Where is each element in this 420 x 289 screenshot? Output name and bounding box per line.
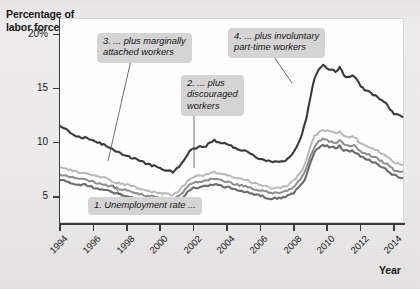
x-tick — [326, 224, 328, 231]
x-tick-label: 2000 — [134, 233, 170, 269]
annotation-3: 3. ... plus marginally attached workers — [97, 33, 192, 63]
x-tick-label: 2012 — [334, 233, 370, 269]
x-tick — [93, 224, 95, 231]
x-tick — [59, 224, 61, 231]
annotation-1: 1. Unemployment rate ... — [88, 197, 202, 215]
annotation-2: 2. ... plus discouraged workers — [181, 75, 244, 116]
x-tick-label: 2002 — [167, 233, 203, 269]
x-tick-label: 1998 — [100, 233, 136, 269]
y-tick-label: 10 — [37, 136, 48, 147]
x-tick — [226, 224, 228, 231]
x-tick-label: 2008 — [267, 233, 303, 269]
x-tick — [293, 224, 295, 231]
x-tick-label: 1994 — [34, 233, 70, 269]
y-tick — [53, 142, 60, 144]
y-tick — [53, 88, 60, 90]
x-tick — [193, 224, 195, 231]
x-tick-label: 2004 — [201, 233, 237, 269]
x-tick-label: 1996 — [67, 233, 103, 269]
x-tick — [260, 224, 262, 231]
x-tick — [126, 224, 128, 231]
y-tick-label: 20% — [28, 28, 48, 39]
x-tick — [360, 224, 362, 231]
y-tick-label: 5 — [42, 190, 48, 201]
annotation-4: 4. ... plus involuntary part-time worker… — [228, 28, 325, 58]
figure-page: Percentage of labor force Year 20%15105 … — [0, 0, 420, 289]
y-tick — [53, 196, 60, 198]
x-tick — [159, 224, 161, 231]
x-axis-line — [59, 223, 405, 225]
x-tick — [393, 224, 395, 231]
y-tick — [53, 34, 60, 36]
x-axis-title: Year — [379, 264, 401, 277]
x-tick-label: 2006 — [234, 233, 270, 269]
x-tick-label: 2010 — [301, 233, 337, 269]
y-tick-label: 15 — [37, 82, 48, 93]
